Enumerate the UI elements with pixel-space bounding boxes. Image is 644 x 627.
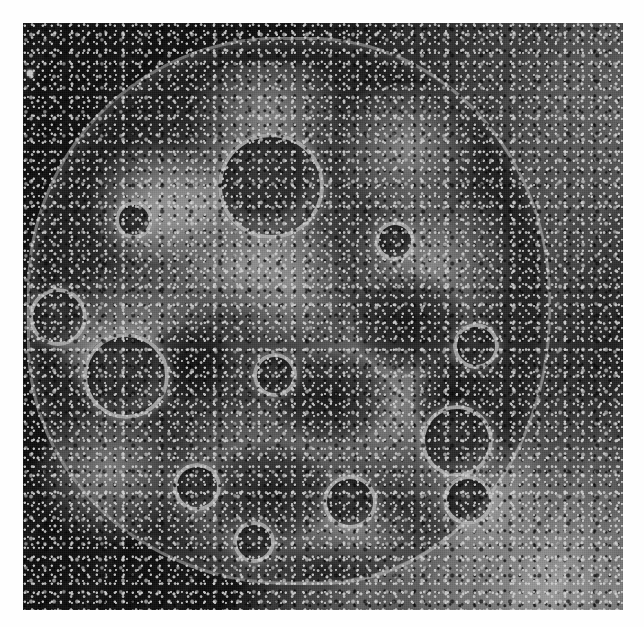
cell-bleb [421,405,493,477]
cell-bleb [173,463,221,511]
cell-bleb [323,475,377,529]
cell-surface-crust [33,403,183,543]
cell-bleb [453,323,499,369]
cell-bleb [218,133,324,239]
registration-dot-mark [27,70,33,76]
cell-bleb [253,353,297,397]
cell-bleb [29,288,87,346]
cell [23,23,623,610]
cell-bleb [375,221,415,261]
micrograph-plate [23,23,623,610]
cell-bleb [443,475,493,525]
cell-bleb [233,521,275,563]
figure-root [0,0,644,627]
cell-bleb [83,333,169,419]
cell-bleb [115,201,153,239]
